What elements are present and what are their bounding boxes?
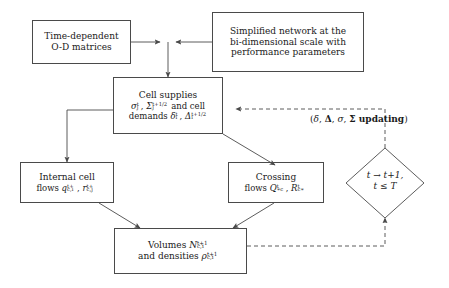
network-line1: Simplified network at the [230,26,346,37]
crossing-flows-line2: flows Qt∗c, Rtc∗ [245,183,308,193]
node-od-matrices[interactable]: Time-dependent O-D matrices [32,20,131,64]
N-symbol: N [189,240,197,250]
internal-flows-line2: flows qt+c,i, rt+c,j [36,183,97,193]
updating-close: ) [404,114,408,124]
internal-flows-line1: Internal cell [39,172,95,183]
rho-sub: c,i [207,254,214,261]
big-delta-sub: i [191,114,193,120]
node-volumes[interactable]: Volumes Nt+1c,i and densities ρt+1c,i [114,228,247,274]
node-network[interactable]: Simplified network at the bi-dimensional… [212,12,364,72]
label-updating: (δ, Δ, σ, Σ updating) [310,114,408,124]
big-sigma-sub: j [152,104,154,110]
flowchart-diagram: Time-dependent O-D matrices Simplified n… [0,0,449,288]
edge-internal-flows-to-volumes [99,203,140,228]
updating-big-delta: Δ [325,114,332,124]
cell-supplies-line1: Cell supplies [139,90,197,101]
Q-symbol: Q [270,183,277,193]
edge-cell-supplies-to-internal-flows [67,110,113,162]
big-delta-sup: t+1/2 [191,111,206,117]
sigma-sub: j [137,104,139,110]
demands-word: demands [129,111,168,121]
N-sub: c,i [197,243,204,250]
Q-sub: ∗c [277,186,284,192]
od-matrices-line2: O-D matrices [51,42,112,53]
volumes-word: Volumes [148,240,186,250]
volumes-line1: Volumes Nt+1c,i [148,240,213,251]
network-line3: performance parameters [231,47,345,58]
node-time-step[interactable]: t → t+1, t ≤ T [346,170,424,191]
volumes-line2: and densities ρt+1c,i [138,251,223,262]
node-internal-flows[interactable]: Internal cell flows qt+c,i, rt+c,j [20,162,114,203]
r-sub: c,j [87,186,93,192]
cell-supplies-line2: σtj, Σt+1/2jand cell [131,101,205,111]
delta-sub: i [176,114,178,120]
R-sub: c∗ [297,186,304,192]
edge-crossing-flows-to-volumes [233,203,274,228]
od-matrices-line1: Time-dependent [44,31,118,42]
node-crossing-flows[interactable]: Crossing flows Qt∗c, Rtc∗ [228,162,324,203]
node-cell-supplies[interactable]: Cell supplies σtj, Σt+1/2jand cell deman… [113,77,223,134]
crossing-flows-word: flows [245,183,267,193]
network-line2: bi-dimensional scale with [230,37,346,48]
crossing-flows-line1: Crossing [256,172,296,183]
cell-supplies-and-cell: and cell [171,101,205,111]
updating-text: updating [356,114,405,124]
flows-word: flows [36,183,58,193]
cell-supplies-line3: demands δti, Δt+1/2i [129,111,207,121]
edge-volumes-to-time-step [247,218,385,246]
edge-cell-supplies-to-crossing-flows [223,134,275,165]
big-sigma-sup: t+1/2 [152,101,167,107]
time-step-line1: t → t+1, [346,170,424,181]
densities-word: and densities [138,251,199,261]
time-step-line2: t ≤ T [346,181,424,192]
q-sub: c,i [67,186,73,192]
